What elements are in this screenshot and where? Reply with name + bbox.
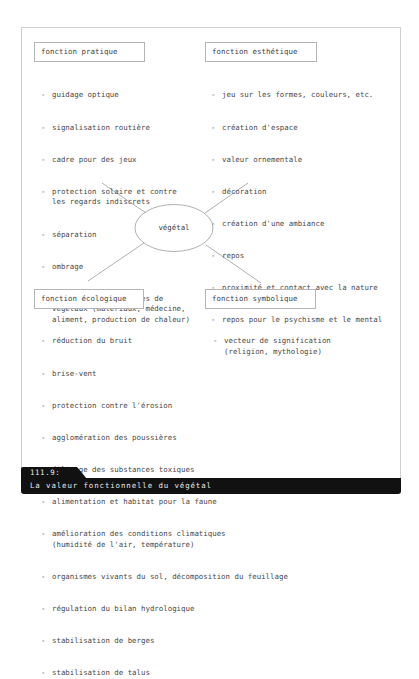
list-item: -jeu sur les formes, couleurs, etc. [211,90,382,101]
figure-caption: La valeur fonctionnelle du végétal [30,480,212,491]
list-item: -protection solaire et contre les regard… [41,187,190,208]
label-fonction-esthetique: fonction esthétique [205,42,317,62]
list-item: -décoration [211,187,382,198]
list-item: -signalisation routière [41,123,190,134]
list-item: -création d'une ambiance [211,219,382,230]
list-item: -vecteur de signification (religion, myt… [213,336,331,357]
list-item: -repos [211,251,382,262]
label-fonction-pratique: fonction pratique [34,42,145,62]
list-fonction-symbolique: -vecteur de signification (religion, myt… [213,315,331,369]
list-item: -ombrage [41,262,190,273]
list-item: -cadre pour des jeux [41,155,190,166]
list-item: -séparation [41,230,190,241]
list-item: -protection contre l'érosion [41,401,288,412]
list-item: -régulation du bilan hydrologique [41,604,288,615]
list-item: -amélioration des conditions climatiques… [41,529,288,550]
label-fonction-ecologique: fonction écologique [34,289,144,309]
list-item: -organismes vivants du sol, décompositio… [41,572,288,583]
list-item: -guidage optique [41,90,190,101]
list-fonction-ecologique: -réduction du bruit -brise-vent -protect… [41,315,288,679]
list-item: -stabilisation de talus [41,668,288,679]
list-item: -agglomération des poussières [41,433,288,444]
list-item: -alimentation et habitat pour la faune [41,497,288,508]
label-fonction-symbolique: fonction symbolique [205,289,316,309]
figure-number: 111.9: [30,468,60,478]
list-item: -brise-vent [41,369,288,380]
list-item: -stabilisation de berges [41,636,288,647]
list-item: -création d'espace [211,123,382,134]
list-item: -valeur ornementale [211,155,382,166]
